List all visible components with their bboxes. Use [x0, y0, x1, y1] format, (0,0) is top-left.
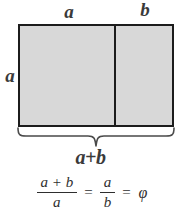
- phi-symbol: φ: [139, 184, 148, 202]
- label-left-side-a: a: [2, 66, 18, 85]
- label-total-width: a+b: [0, 147, 181, 167]
- fraction1-numerator: a + b: [37, 174, 78, 192]
- fraction2-numerator: a: [100, 174, 116, 192]
- label-top-segment-b: b: [136, 0, 154, 19]
- golden-rectangle: [18, 24, 174, 127]
- golden-ratio-figure: a b a a+b a + b a = a b = φ: [0, 0, 181, 223]
- fraction-a-over-b: a b: [100, 174, 116, 212]
- rectangle-divider-line: [114, 24, 116, 127]
- fraction2-denominator: b: [100, 193, 116, 211]
- fraction1-denominator: a: [49, 193, 65, 211]
- equals-sign-1: =: [84, 184, 92, 201]
- golden-ratio-equation: a + b a = a b = φ: [0, 174, 181, 212]
- equals-sign-2: =: [122, 184, 130, 201]
- fraction-a-plus-b-over-a: a + b a: [37, 174, 78, 212]
- label-top-segment-a: a: [60, 2, 78, 21]
